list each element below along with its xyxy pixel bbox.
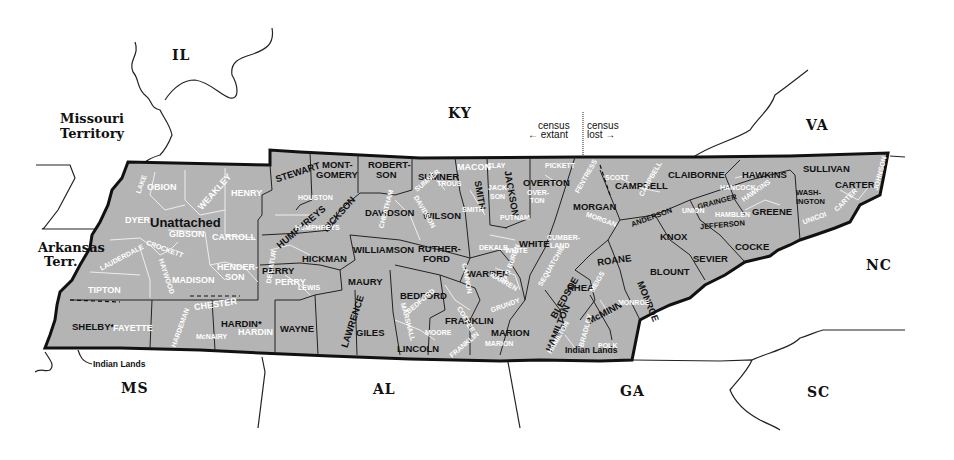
label-arkansas-line2: Terr. (44, 254, 77, 269)
county-knox: KNOX (660, 231, 688, 242)
county-davidson: DAVIDSON (365, 207, 415, 218)
modern-overton-1: OVER- (527, 189, 550, 196)
modern-scott: SCOTT (605, 174, 629, 181)
county-montgomery-2: GOMERY (316, 169, 359, 180)
county-giles: GILES (356, 327, 385, 338)
county-overton: OVERTON (523, 177, 570, 188)
modern-henderson-1: HENDER- (217, 262, 258, 272)
modern-clay: CLAY (487, 162, 506, 169)
modern-lewis: LEWIS (298, 284, 320, 291)
modern-polk: POLK (598, 342, 617, 349)
label-indian-lands-west: Indian Lands (93, 359, 146, 369)
modern-pickett: PICKETT (545, 162, 576, 169)
county-sevier: SEVIER (693, 253, 728, 264)
county-maury: MAURY (348, 276, 383, 287)
modern-cumberland-1: CUMBER- (547, 234, 581, 241)
label-kentucky: KY (448, 105, 472, 121)
modern-hancock: HANCOCK (720, 184, 756, 191)
label-illinois: IL (172, 47, 190, 63)
mississippi-river-north (132, 42, 172, 162)
county-robertson-2: SON (376, 169, 397, 180)
modern-mcnairy: McNAIRY (196, 333, 228, 340)
county-marion: MARION (491, 327, 530, 338)
mississippi-river-south (35, 352, 52, 372)
modern-macon: MACON (457, 162, 491, 172)
county-washington-2: INGTON (796, 197, 825, 206)
county-rutherford-2: FORD (423, 253, 450, 264)
arkansas-border (36, 165, 100, 229)
modern-moore: MOORE (425, 329, 452, 336)
modern-jackson-2: SON (490, 193, 505, 200)
ohio-river (165, 28, 273, 100)
modern-jackson-1: JACK- (488, 184, 510, 191)
nc-ga-border (632, 360, 720, 361)
modern-putnam: PUTNAM (500, 214, 530, 221)
census-legend: census ← extant census lost → (528, 120, 619, 140)
label-missouri-line2: Territory (60, 126, 125, 141)
legend-extant-line2: ← extant (528, 129, 568, 140)
modern-marion: MARION (485, 340, 513, 347)
modern-overton-2: TON (530, 197, 545, 204)
modern-humphreys: HUMPHREYS (295, 224, 340, 231)
county-sullivan: SULLIVAN (803, 163, 850, 174)
modern-dyer: DYER (125, 215, 151, 225)
county-carter: CARTER (835, 179, 875, 190)
modern-houston: HOUSTON (298, 194, 333, 201)
label-unattached: Unattached (150, 215, 221, 230)
modern-hamblen: HAMBLEN (715, 211, 750, 218)
nc-sc-border (752, 330, 905, 360)
county-claiborne: CLAIBORNE (668, 169, 724, 180)
county-blount: BLOUNT (650, 266, 690, 277)
modern-smith: SMITH (462, 206, 484, 213)
modern-carroll: CARROLL (212, 232, 256, 242)
tennessee-county-map: IL Missouri Territory Arkansas Terr. KY … (0, 0, 954, 460)
label-virginia: VA (805, 117, 829, 133)
ms-al-border (258, 357, 265, 428)
modern-gibson: GIBSON (169, 229, 205, 239)
modern-henderson-2: SON (225, 272, 245, 282)
county-lincoln: LINCOLN (397, 343, 439, 354)
modern-hardin: HARDIN (238, 327, 273, 337)
county-hickman: HICKMAN (302, 253, 347, 264)
legend-lost-line2: lost → (587, 129, 615, 140)
county-hawkins: HAWKINS (742, 169, 787, 180)
label-alabama: AL (372, 381, 396, 397)
nc-east-border (890, 156, 905, 157)
label-north-carolina: NC (866, 257, 892, 273)
county-greene: GREENE (752, 206, 792, 217)
label-georgia: GA (620, 383, 645, 399)
modern-henry: HENRY (231, 188, 262, 198)
label-missouri-line1: Missouri (60, 111, 124, 126)
modern-trousdale: TROUS (437, 180, 462, 187)
modern-fayette: FAYETTE (113, 323, 153, 333)
modern-obion: OBION (147, 182, 177, 192)
county-cocke: COCKE (735, 241, 769, 252)
indian-lands-leader (78, 350, 92, 364)
modern-dekalb: DEKALB (479, 244, 508, 251)
sc-ga-border (720, 360, 780, 430)
modern-tipton: TIPTON (88, 285, 121, 295)
county-washington-1: WASH- (796, 188, 822, 197)
virginia-border (692, 70, 808, 158)
al-ga-border (508, 362, 520, 428)
county-morgan: MORGAN (573, 201, 616, 212)
county-wayne: WAYNE (280, 323, 314, 334)
modern-union: UNION (682, 207, 705, 214)
label-arkansas-line1: Arkansas (37, 240, 105, 255)
modern-monroe: MONROE (618, 299, 650, 306)
county-williamson: WILLIAMSON (353, 244, 414, 255)
label-mississippi: MS (121, 380, 149, 396)
label-south-carolina: SC (807, 384, 830, 400)
county-shelby: SHELBY* (72, 321, 115, 332)
modern-madison: MADISON (172, 275, 215, 285)
